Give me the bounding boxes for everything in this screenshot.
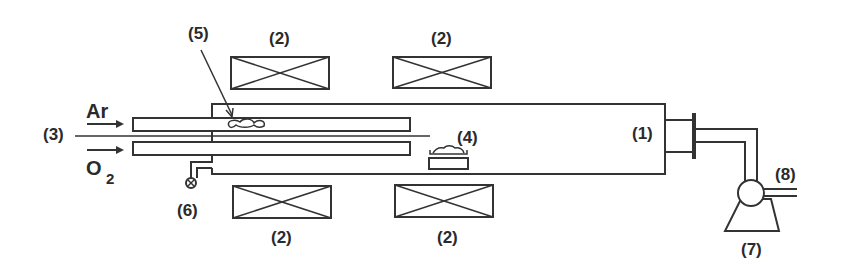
source-pointer-arrow	[201, 50, 232, 115]
inner-tube-lower	[133, 142, 410, 155]
label-exhaust: (8)	[775, 165, 796, 184]
heater-top-left	[231, 57, 329, 89]
label-substrate: (4)	[457, 128, 478, 147]
label-valve: (6)	[177, 201, 198, 220]
label-oxygen: O	[86, 157, 102, 179]
exhaust-pipe	[696, 129, 757, 181]
exhaust-outlet	[764, 189, 797, 196]
heater-bottom-right	[395, 185, 493, 217]
outlet-flange	[665, 113, 696, 159]
label-argon: Ar	[86, 100, 108, 122]
valve-icon	[186, 178, 196, 188]
label-heater-top-right: (2)	[431, 29, 452, 48]
substrate-holder	[429, 146, 468, 169]
label-inlet: (3)	[43, 125, 64, 144]
label-heater-bottom-right: (2)	[437, 228, 458, 247]
heater-bottom-left	[233, 186, 331, 218]
furnace-diagram: (5) (2) (2) (2) (2) (3) (4) (6) (1) (7) …	[0, 0, 841, 272]
vacuum-pump-icon	[725, 180, 779, 231]
label-pump: (7)	[741, 240, 762, 259]
oxygen-arrow	[87, 146, 124, 154]
heater-top-right	[393, 57, 491, 88]
label-heater-bottom-left: (2)	[271, 228, 292, 247]
label-source: (5)	[188, 24, 209, 43]
inner-tube-upper	[133, 118, 410, 131]
label-heater-top-left: (2)	[269, 29, 290, 48]
label-oxygen-subscript: 2	[106, 170, 114, 187]
label-tube: (1)	[632, 124, 653, 143]
